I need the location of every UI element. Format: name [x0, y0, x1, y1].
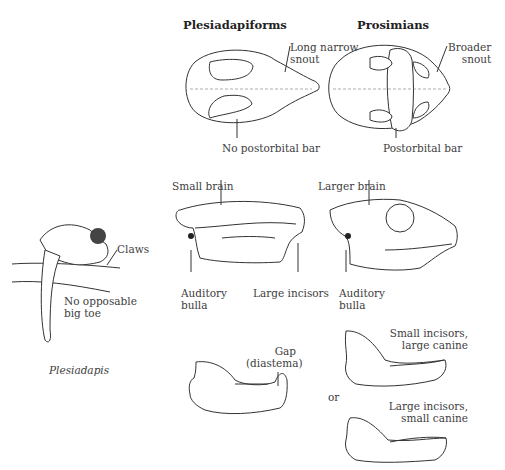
- no-opposable-big-toe-label: No opposable big toe: [64, 295, 137, 319]
- prosimian-lower-jaw-large-incisors: [345, 418, 446, 463]
- prosimian-skull-side-view: [330, 199, 457, 270]
- or-label: or: [328, 391, 339, 403]
- broader-snout-label: Broader snout: [448, 41, 491, 65]
- small-incisors-large-canine-label: Small incisors, large canine: [380, 327, 468, 351]
- left-auditory-bulla-label: Auditory bulla: [181, 287, 227, 311]
- plesiadapiform-skull-side-view: [176, 201, 304, 262]
- plesiadapis-caption: Plesiadapis: [49, 364, 109, 376]
- plesiadapis-animal: [12, 225, 120, 342]
- larger-brain-label: Larger brain: [318, 180, 386, 192]
- claws-label: Claws: [117, 243, 149, 255]
- prosimians-header: Prosimians: [357, 18, 429, 32]
- long-narrow-snout-label: Long narrow snout: [290, 41, 359, 65]
- no-postorbital-bar-label: No postorbital bar: [222, 142, 320, 154]
- large-incisors-label: Large incisors: [253, 287, 329, 299]
- postorbital-bar-label: Postorbital bar: [383, 142, 462, 154]
- large-incisors-small-canine-label: Large incisors, small canine: [380, 400, 468, 424]
- gap-diastema-label: Gap (diastema): [246, 345, 296, 369]
- small-brain-label: Small brain: [172, 180, 234, 192]
- plesiadapiforms-header: Plesiadapiforms: [183, 18, 287, 32]
- plesiadapiform-lower-jaw: [189, 362, 287, 414]
- right-auditory-bulla-label: Auditory bulla: [339, 287, 385, 311]
